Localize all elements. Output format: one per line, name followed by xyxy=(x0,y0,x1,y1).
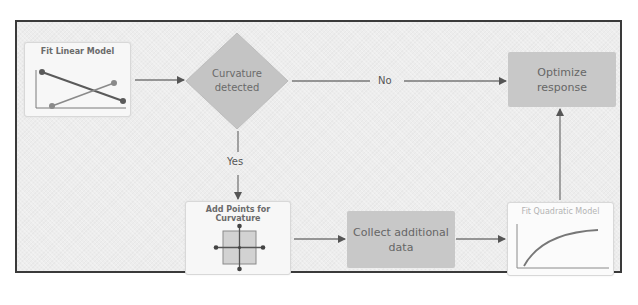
edge-label-yes: Yes xyxy=(227,156,243,168)
add-points-line1: Add Points for xyxy=(206,205,271,214)
node-optimize-response[interactable]: Optimize response xyxy=(508,52,616,107)
optimize-response-line1: Optimize xyxy=(537,65,586,80)
fit-quadratic-model-title: Fit Quadratic Model xyxy=(522,207,600,216)
node-add-points-for-curvature[interactable]: Add Points for Curvature xyxy=(185,201,291,275)
node-collect-additional-data[interactable]: Collect additional data xyxy=(347,211,455,268)
edge-label-no: No xyxy=(378,75,392,87)
collect-line2: data xyxy=(389,240,414,255)
crossing-lines-plot-icon xyxy=(28,56,128,114)
node-fit-linear-model[interactable]: Fit Linear Model xyxy=(24,42,131,117)
fit-linear-model-title: Fit Linear Model xyxy=(41,47,114,56)
collect-line1: Collect additional xyxy=(353,225,449,240)
node-curvature-detected[interactable]: Curvature detected xyxy=(185,32,289,130)
node-fit-quadratic-model[interactable]: Fit Quadratic Model xyxy=(507,202,614,276)
curve-plot-icon xyxy=(511,216,611,274)
optimize-response-line2: response xyxy=(537,80,587,95)
add-points-line2: Curvature xyxy=(215,214,260,223)
center-axial-points-icon xyxy=(208,223,268,273)
curvature-detected-line1: Curvature xyxy=(212,67,262,81)
curvature-detected-line2: detected xyxy=(215,81,260,95)
